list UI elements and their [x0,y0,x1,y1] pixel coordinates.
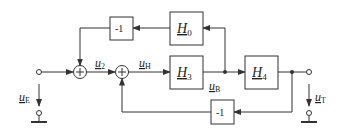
summing-junction-2 [116,66,129,79]
input-terminal [31,70,73,123]
signal-uH-label: uH [139,56,151,71]
block-neg-top-label: -1 [115,23,123,34]
signal-uE-label: uE [19,90,30,105]
signal-uT-label: uT [315,90,326,105]
block-diagram: H0 H3 H4 -1 -1 u2 uH uB uE uT [0,0,346,137]
block-neg-bottom-label: -1 [216,107,224,118]
signal-u2-label: u2 [95,56,105,71]
summing-junction-1 [74,66,87,79]
signal-uB-label: uB [209,79,220,94]
